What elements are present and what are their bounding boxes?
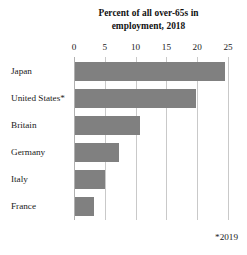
bar	[75, 197, 94, 216]
chart-title: Percent of all over-65s in employment, 2…	[56, 7, 241, 32]
bar-chart-figure: Percent of all over-65s in employment, 2…	[0, 0, 247, 255]
chart-title-line-2: employment, 2018	[56, 20, 241, 33]
category-label: Britain	[11, 116, 37, 135]
plot-area	[74, 57, 228, 220]
bar	[75, 170, 105, 189]
category-label: Japan	[11, 62, 32, 81]
gridline-25	[228, 57, 229, 220]
gridline-15	[166, 57, 167, 220]
category-label: United States*	[11, 89, 65, 108]
x-tick-label-10: 10	[121, 41, 151, 53]
chart-footnote: *2019	[215, 231, 238, 243]
x-tick-label-15: 15	[151, 41, 181, 53]
bar	[75, 116, 140, 135]
gridline-5	[105, 57, 106, 220]
gridline-10	[136, 57, 137, 220]
category-label: Germany	[11, 143, 45, 162]
chart-title-line-1: Percent of all over-65s in	[56, 7, 241, 20]
x-tick-label-5: 5	[90, 41, 120, 53]
y-axis-category-labels: JapanUnited States*BritainGermanyItalyFr…	[0, 57, 74, 220]
category-label: France	[11, 197, 36, 216]
category-label: Italy	[11, 170, 28, 189]
gridline-0	[74, 57, 75, 220]
x-tick-label-20: 20	[182, 41, 212, 53]
x-tick-label-25: 25	[213, 41, 243, 53]
gridline-20	[197, 57, 198, 220]
x-axis-tick-labels: 0510152025	[0, 41, 247, 55]
bar	[75, 62, 225, 81]
bar	[75, 89, 196, 108]
bar	[75, 143, 119, 162]
x-tick-label-0: 0	[59, 41, 89, 53]
